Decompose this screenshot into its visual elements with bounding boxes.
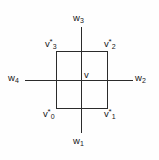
square-cell (56, 51, 108, 109)
axis-label-w2-sub: 2 (142, 77, 146, 84)
geometric-diagram: w3 w2 w1 w4 v*3 v*2 v*0 v*1 v (0, 0, 159, 160)
vertex-label-v1-sub: 1 (112, 113, 116, 120)
vertex-label-v0-sub: 0 (51, 113, 55, 120)
vertex-label-v1-star: v*1 (104, 108, 116, 120)
center-node-label-base: v (84, 69, 89, 80)
axis-label-w3-sub: 3 (80, 17, 84, 24)
axis-label-w1: w1 (73, 136, 84, 147)
vertex-label-v0-star: v*0 (43, 108, 55, 120)
vertex-label-v2-sub: 2 (112, 43, 116, 50)
axis-label-w3-base: w (73, 12, 80, 23)
vertex-label-v2-star: v*2 (104, 38, 116, 50)
axis-label-w3: w3 (73, 13, 84, 24)
axis-label-w2-base: w (135, 72, 142, 83)
axis-label-w1-base: w (73, 135, 80, 146)
axis-label-w2: w2 (135, 73, 146, 84)
vertex-label-v3-sub: 3 (53, 43, 57, 50)
axis-label-w4: w4 (8, 73, 19, 84)
axis-label-w4-base: w (8, 72, 15, 83)
vertex-label-v3-star: v*3 (45, 38, 57, 50)
axis-label-w4-sub: 4 (15, 77, 19, 84)
center-node-label: v (84, 70, 89, 80)
axis-label-w1-sub: 1 (80, 140, 84, 147)
